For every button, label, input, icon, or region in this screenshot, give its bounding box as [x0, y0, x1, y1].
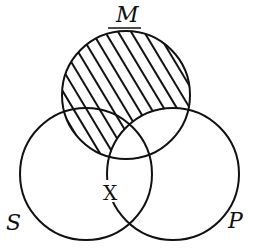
hatch-line — [0, 20, 32, 170]
venn-diagram: M S P X — [0, 0, 254, 249]
hatch-line — [189, 20, 254, 170]
hatch-line — [241, 20, 254, 170]
hatch-line — [0, 20, 6, 170]
circle-s — [20, 108, 152, 240]
hatch-line — [0, 20, 58, 170]
hatch-line — [124, 20, 214, 170]
hatch-line — [33, 20, 123, 170]
label-s: S — [6, 210, 21, 235]
hatch-line — [176, 20, 254, 170]
hatch-line — [111, 20, 201, 170]
circle-m — [62, 31, 190, 159]
hatch-line — [59, 20, 149, 170]
hatch-line — [20, 20, 110, 170]
hatch-line — [0, 20, 71, 170]
hatch-line — [137, 20, 227, 170]
label-p: P — [227, 208, 244, 233]
hatch-line — [228, 20, 254, 170]
hatch-line — [0, 20, 19, 170]
hatch-line — [72, 20, 162, 170]
hatch-line — [7, 20, 97, 170]
hatched-region — [0, 20, 254, 170]
hatch-line — [0, 20, 84, 170]
hatch-line — [0, 20, 45, 170]
hatch-line — [163, 20, 253, 170]
circle-p — [107, 108, 239, 240]
label-m: M — [115, 2, 139, 27]
hatch-line — [202, 20, 254, 170]
label-x: X — [103, 181, 118, 205]
